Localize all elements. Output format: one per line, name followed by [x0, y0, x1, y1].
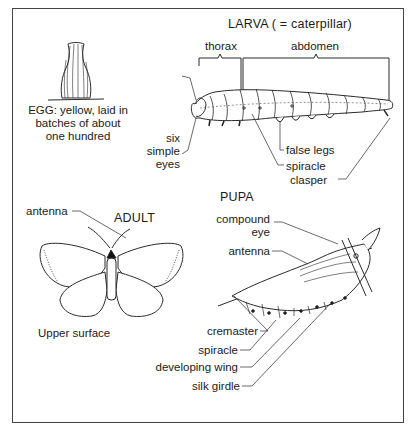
egg-illustration: [48, 43, 104, 101]
developing-wing-label: developing wing: [130, 361, 238, 374]
abdomen-label: abdomen: [291, 40, 339, 53]
six-simple-eyes-label: six simple eyes: [136, 132, 180, 171]
false-legs-label: false legs: [286, 144, 335, 157]
egg-caption-line: EGG: yellow, laid in: [24, 104, 132, 117]
cremaster-label: cremaster: [160, 325, 258, 338]
compound-eye-label: compound eye: [200, 213, 270, 239]
larva-spiracle-label: spiracle: [286, 160, 326, 173]
pupa-spiracle-label: spiracle: [140, 344, 238, 357]
upper-surface-caption: Upper surface: [38, 327, 110, 340]
egg-caption-line: one hundred: [24, 130, 132, 143]
eyes-label-line: six: [136, 132, 180, 145]
pupa-antenna-label: antenna: [200, 245, 270, 258]
eyes-label-line: simple: [136, 145, 180, 158]
silk-girdle-label: silk girdle: [140, 380, 240, 393]
eyes-label-line: eyes: [136, 158, 180, 171]
egg-caption: EGG: yellow, laid in batches of about on…: [24, 104, 132, 143]
clasper-label: clasper: [290, 174, 327, 187]
egg-caption-line: batches of about: [24, 117, 132, 130]
adult-title: ADULT: [114, 212, 155, 225]
adult-antenna-label: antenna: [26, 205, 68, 218]
adult-illustration: [40, 227, 183, 316]
compound-eye-line: compound: [200, 213, 270, 226]
compound-eye-line: eye: [200, 226, 270, 239]
larva-illustration: [191, 89, 392, 126]
larva-title: LARVA ( = caterpillar): [228, 18, 352, 31]
pupa-title: PUPA: [220, 191, 254, 204]
thorax-label: thorax: [205, 40, 237, 53]
